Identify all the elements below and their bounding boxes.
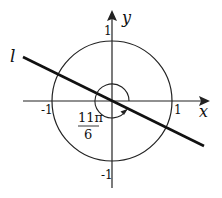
y-tick-1: 1 — [104, 24, 112, 38]
angle-arrow-icon — [121, 109, 128, 115]
x-axis-label: x — [199, 102, 208, 121]
y-axis-label: y — [121, 8, 132, 27]
x-tick-neg1: -1 — [41, 103, 53, 117]
x-tick-1: 1 — [174, 103, 182, 117]
angle-numerator: 11π — [78, 110, 104, 125]
y-tick-neg1: -1 — [101, 168, 113, 182]
unit-circle-diagram: y x 1 -1 -1 1 l 11π 6 — [0, 0, 222, 198]
angle-denominator: 6 — [84, 127, 92, 142]
line-l-label: l — [10, 46, 15, 66]
